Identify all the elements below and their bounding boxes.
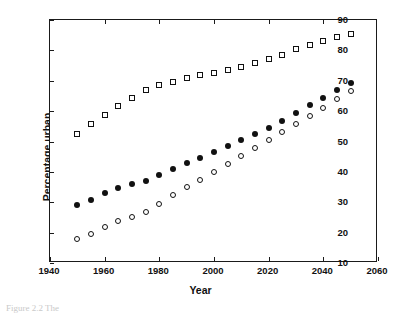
- data-point: [170, 166, 176, 172]
- x-axis-tick: [105, 257, 106, 261]
- y-axis-tick: [50, 50, 54, 51]
- x-axis-tick: [269, 257, 270, 261]
- data-point: [334, 96, 340, 102]
- data-point: [348, 31, 354, 37]
- data-point: [211, 169, 217, 175]
- data-point: [211, 149, 217, 155]
- data-point: [348, 88, 354, 94]
- data-point: [170, 79, 176, 85]
- data-point: [102, 190, 108, 196]
- data-point: [279, 52, 285, 58]
- figure-caption: Figure 2.2 The: [6, 303, 396, 314]
- y-axis-tick-label: 30: [308, 196, 348, 207]
- x-axis-tick-top: [105, 20, 106, 24]
- data-point: [293, 110, 299, 116]
- data-point: [320, 95, 326, 101]
- data-point: [74, 131, 80, 137]
- y-axis-tick-label: 60: [308, 105, 348, 116]
- data-point: [266, 137, 272, 143]
- y-axis-tick-label: 80: [308, 44, 348, 55]
- data-point: [252, 131, 258, 137]
- y-axis-tick: [50, 263, 54, 264]
- data-point: [129, 181, 135, 187]
- y-axis-tick-label: 50: [308, 135, 348, 146]
- data-point: [143, 87, 149, 93]
- data-point: [88, 121, 94, 127]
- data-point: [156, 201, 162, 207]
- data-point: [184, 160, 190, 166]
- data-point: [279, 118, 285, 124]
- data-point: [238, 64, 244, 70]
- data-point: [74, 236, 80, 242]
- x-axis-tick: [50, 257, 51, 261]
- data-point: [129, 214, 135, 220]
- data-point: [197, 72, 203, 78]
- x-axis-tick-label: 2020: [257, 265, 278, 276]
- y-axis-tick: [50, 202, 54, 203]
- data-point: [238, 137, 244, 143]
- data-point: [293, 46, 299, 52]
- data-point: [238, 153, 244, 159]
- y-axis-tick-label: 20: [308, 226, 348, 237]
- y-axis-tick: [50, 81, 54, 82]
- figure-container: Percentage urban 10203040506070809019401…: [0, 0, 401, 314]
- data-point: [334, 87, 340, 93]
- x-axis-tick-label: 2000: [202, 265, 223, 276]
- data-point: [102, 224, 108, 230]
- data-point: [197, 177, 203, 183]
- y-axis-tick-label: 70: [308, 74, 348, 85]
- data-point: [279, 129, 285, 135]
- data-point: [266, 125, 272, 131]
- data-point: [197, 155, 203, 161]
- data-point: [88, 197, 94, 203]
- data-point: [156, 172, 162, 178]
- x-axis-tick: [378, 257, 379, 261]
- y-axis-tick: [50, 233, 54, 234]
- data-point: [266, 56, 272, 62]
- data-point: [115, 103, 121, 109]
- data-point: [156, 82, 162, 88]
- x-axis-tick-top: [159, 20, 160, 24]
- x-axis-tick: [159, 257, 160, 261]
- data-point: [88, 231, 94, 237]
- data-point: [143, 209, 149, 215]
- data-point: [211, 70, 217, 76]
- data-point: [225, 161, 231, 167]
- y-axis-tick: [50, 142, 54, 143]
- x-axis-tick-label: 1980: [148, 265, 169, 276]
- x-axis-title: Year: [0, 284, 401, 296]
- x-axis-tick-top: [214, 20, 215, 24]
- data-point: [334, 34, 340, 40]
- y-axis-tick-label: 40: [308, 165, 348, 176]
- data-point: [348, 80, 354, 86]
- x-axis-tick: [214, 257, 215, 261]
- data-point: [129, 95, 135, 101]
- y-axis-tick: [50, 20, 54, 21]
- data-point: [252, 145, 258, 151]
- data-point: [293, 121, 299, 127]
- data-point: [143, 178, 149, 184]
- y-axis-tick-label: 90: [308, 14, 348, 25]
- data-point: [102, 112, 108, 118]
- y-axis-tick: [50, 172, 54, 173]
- data-point: [225, 67, 231, 73]
- data-point: [74, 202, 80, 208]
- x-axis-tick-label: 1960: [93, 265, 114, 276]
- x-axis-tick-label: 2040: [312, 265, 333, 276]
- data-point: [115, 185, 121, 191]
- data-point: [252, 60, 258, 66]
- data-point: [115, 218, 121, 224]
- x-axis-tick-top: [269, 20, 270, 24]
- data-point: [184, 184, 190, 190]
- data-point: [170, 192, 176, 198]
- data-point: [225, 143, 231, 149]
- x-axis-tick-label: 1940: [38, 265, 59, 276]
- data-point: [184, 75, 190, 81]
- x-axis-tick-label: 2060: [366, 265, 387, 276]
- y-axis-tick: [50, 111, 54, 112]
